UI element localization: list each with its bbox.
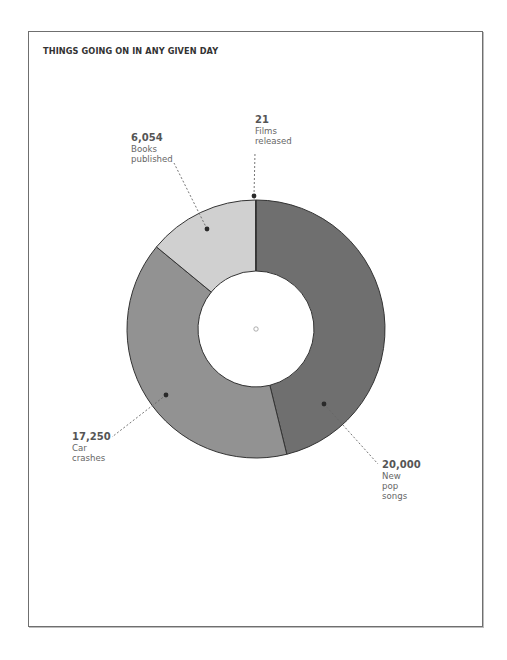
donut-chart bbox=[0, 0, 507, 660]
label-cars-value: 17,250 bbox=[72, 431, 111, 443]
label-films: 21 Films released bbox=[255, 114, 292, 146]
center-marker bbox=[254, 327, 258, 331]
label-pop-text: New pop songs bbox=[382, 471, 421, 501]
leader-cars-dot bbox=[164, 393, 169, 398]
donut-slices bbox=[127, 200, 385, 458]
label-pop: 20,000 New pop songs bbox=[382, 459, 421, 501]
label-cars-text: Car crashes bbox=[72, 443, 111, 463]
label-books-text: Books published bbox=[131, 144, 173, 164]
leader-films bbox=[254, 152, 255, 196]
label-cars: 17,250 Car crashes bbox=[72, 431, 111, 463]
label-pop-value: 20,000 bbox=[382, 459, 421, 471]
label-films-text: Films released bbox=[255, 126, 292, 146]
leader-films-dot bbox=[252, 194, 257, 199]
label-books-value: 6,054 bbox=[131, 132, 173, 144]
label-films-value: 21 bbox=[255, 114, 292, 126]
leader-pop-dot bbox=[322, 402, 327, 407]
label-books: 6,054 Books published bbox=[131, 132, 173, 164]
leader-books-dot bbox=[205, 227, 210, 232]
